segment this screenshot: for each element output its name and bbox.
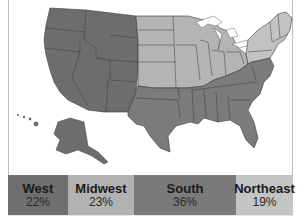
legend-south-name: South xyxy=(167,182,204,196)
divider xyxy=(8,215,293,216)
legend-south: South 36% xyxy=(134,175,236,215)
legend-northeast-name: Northeast xyxy=(234,182,295,196)
northeast-region xyxy=(246,12,292,64)
legend-west: West 22% xyxy=(8,175,68,215)
legend-south-percent: 36% xyxy=(173,196,197,209)
legend-midwest-percent: 23% xyxy=(89,196,113,209)
legend-midwest: Midwest 23% xyxy=(68,175,134,215)
alaska xyxy=(54,118,108,164)
hawaii xyxy=(17,114,38,126)
west-region xyxy=(44,8,138,112)
legend-west-name: West xyxy=(23,182,54,196)
legend-midwest-name: Midwest xyxy=(75,182,126,196)
us-region-map xyxy=(8,0,293,175)
legend-west-percent: 22% xyxy=(26,196,50,209)
legend-northeast-percent: 19% xyxy=(252,196,276,209)
legend-northeast: Northeast 19% xyxy=(236,175,293,215)
region-legend: West 22% Midwest 23% South 36% Northeast… xyxy=(8,175,293,215)
